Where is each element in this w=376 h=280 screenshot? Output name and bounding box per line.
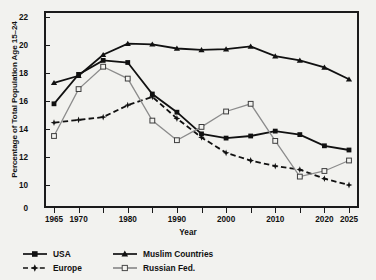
x-tick-mark xyxy=(128,208,129,213)
y-tick-label: 18 xyxy=(6,69,28,78)
legend-label-russian-fed: Russian Fed. xyxy=(143,263,195,273)
x-tick-mark xyxy=(152,208,153,213)
x-tick-mark xyxy=(349,208,350,213)
legend-swatch-russian-fed xyxy=(112,262,138,274)
x-tick-label: 2000 xyxy=(206,215,246,224)
x-tick-mark xyxy=(202,208,203,213)
chart-legend: USA Muslim Countries Europe xyxy=(22,247,262,275)
y-tick-label: 10 xyxy=(6,181,28,190)
x-tick-mark xyxy=(79,208,80,213)
x-tick-mark xyxy=(275,208,276,213)
y-tick-mark xyxy=(44,17,50,18)
x-axis-title: Year xyxy=(0,228,376,237)
legend-swatch-usa xyxy=(22,248,48,260)
x-tick-mark xyxy=(226,208,227,213)
x-tick-mark xyxy=(324,208,325,213)
legend-item-muslim-countries[interactable]: Muslim Countries xyxy=(112,247,213,261)
legend-swatch-muslim-countries xyxy=(112,248,138,260)
legend-item-europe[interactable]: Europe xyxy=(22,261,82,275)
y-tick-mark xyxy=(44,185,50,186)
y-tick-mark xyxy=(44,45,50,46)
x-tick-mark xyxy=(177,208,178,213)
y-tick-mark xyxy=(44,101,50,102)
y-tick-mark xyxy=(44,129,50,130)
x-tick-mark xyxy=(54,208,55,213)
x-tick-mark xyxy=(300,208,301,213)
legend-swatch-europe xyxy=(22,262,48,274)
y-tick-label: 22 xyxy=(6,13,28,22)
x-tick-label: 2025 xyxy=(329,215,369,224)
legend-row-1: USA Muslim Countries xyxy=(22,247,262,261)
y-tick-label: 16 xyxy=(6,97,28,106)
x-tick-label: 1990 xyxy=(157,215,197,224)
chart-figure: Percentage of Total Population Age 15–24… xyxy=(0,0,376,280)
x-tick-mark xyxy=(251,208,252,213)
y-tick-mark xyxy=(44,73,50,74)
x-tick-label: 1970 xyxy=(59,215,99,224)
legend-label-muslim-countries: Muslim Countries xyxy=(143,249,213,259)
legend-item-usa[interactable]: USA xyxy=(22,247,71,261)
legend-row-2: Europe Russian Fed. xyxy=(22,261,262,275)
y-tick-label: 14 xyxy=(6,125,28,134)
y-tick-label: 20 xyxy=(6,41,28,50)
legend-label-europe: Europe xyxy=(53,263,82,273)
legend-item-russian-fed[interactable]: Russian Fed. xyxy=(112,261,195,275)
y-tick-mark xyxy=(44,157,50,158)
legend-label-usa: USA xyxy=(53,249,71,259)
plot-area xyxy=(44,11,359,208)
x-tick-mark xyxy=(103,208,104,213)
x-tick-label: 2010 xyxy=(255,215,295,224)
x-tick-label: 1980 xyxy=(108,215,148,224)
y-tick-label: 0 xyxy=(6,204,28,213)
y-tick-label: 12 xyxy=(6,153,28,162)
